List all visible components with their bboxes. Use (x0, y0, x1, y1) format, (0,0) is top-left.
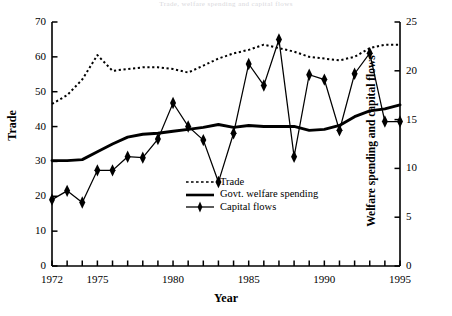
series-capital-flows-marker (125, 150, 131, 162)
series-capital-flows-marker (276, 33, 282, 45)
x-axis-label: Year (0, 291, 452, 306)
y-axis-left-tick-label: 60 (20, 50, 46, 62)
y-axis-right-tick-label: 5 (406, 210, 432, 222)
series-capital-flows-marker (64, 185, 70, 197)
series-welfare-spending-line (52, 105, 400, 161)
diamond-marker-line-key (185, 201, 215, 213)
y-axis-left-tick-label: 40 (20, 120, 46, 132)
y-axis-right-label: Welfare spending and capital flows (365, 26, 377, 256)
y-axis-left-tick-label: 0 (20, 259, 46, 271)
legend-item-welfare: Govt. welfare spending (185, 188, 318, 200)
x-axis-tick-label: 1990 (304, 273, 344, 285)
y-axis-right-tick-label: 10 (406, 161, 432, 173)
x-axis-tick-label: 1995 (380, 273, 420, 285)
series-capital-flows-marker (246, 58, 252, 70)
x-axis-tick-label: 1980 (153, 273, 193, 285)
x-axis-tick-label: 1985 (229, 273, 269, 285)
series-capital-flows-marker (261, 79, 267, 91)
series-capital-flows-marker (382, 115, 388, 127)
y-axis-left-tick-label: 20 (20, 189, 46, 201)
chart-plot-svg (0, 0, 452, 316)
series-trade-line (52, 45, 400, 104)
series-capital-flows-marker (110, 164, 116, 176)
chart-legend: Trade Govt. welfare spending Capital flo… (185, 176, 318, 213)
y-axis-right-tick-label: 15 (406, 113, 432, 125)
y-axis-left-tick-label: 10 (20, 224, 46, 236)
series-capital-flows-marker (231, 127, 237, 139)
y-axis-left-tick-label: 70 (20, 15, 46, 27)
legend-label-capital-flows: Capital flows (220, 201, 276, 213)
y-axis-right-tick-label: 25 (406, 15, 432, 27)
y-axis-right-tick-label: 20 (406, 64, 432, 76)
legend-item-trade: Trade (185, 176, 318, 188)
y-axis-left-label: Trade (5, 96, 20, 156)
chart-figure: Trade, welfare spending and capital flow… (0, 0, 452, 316)
series-capital-flows-marker (352, 68, 358, 80)
dotted-line-key (185, 176, 215, 188)
series-capital-flows-marker (306, 69, 312, 81)
y-axis-left-tick-label: 30 (20, 154, 46, 166)
legend-label-welfare: Govt. welfare spending (220, 188, 318, 200)
legend-item-capital-flows: Capital flows (185, 201, 318, 213)
x-axis-tick-label: 1975 (77, 273, 117, 285)
series-capital-flows-marker (140, 151, 146, 163)
x-axis-tick-label: 1972 (32, 273, 72, 285)
y-axis-right-tick-label: 0 (406, 259, 432, 271)
series-capital-flows-marker (397, 115, 403, 127)
y-axis-left-tick-label: 50 (20, 85, 46, 97)
legend-label-trade: Trade (220, 176, 244, 188)
series-capital-flows-marker (291, 150, 297, 162)
series-capital-flows-marker (321, 73, 327, 85)
series-capital-flows-marker (49, 193, 55, 205)
solid-line-key (185, 189, 215, 201)
